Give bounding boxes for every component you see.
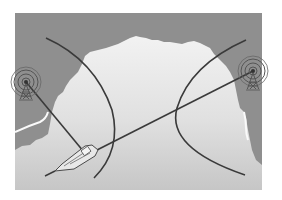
diagram-illustration	[0, 0, 282, 200]
navigation-diagram	[0, 0, 282, 200]
